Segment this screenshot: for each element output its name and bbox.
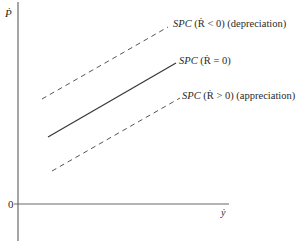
- spc-appreciation-label: SPC (Ṙ > 0) (appreciation): [182, 90, 296, 102]
- spc-depreciation-label: SPC (Ṙ < 0) (depreciation): [173, 18, 287, 30]
- origin-label: 0: [8, 198, 14, 210]
- x-axis-label: ẏ: [220, 207, 226, 218]
- spc-appreciation-line: [52, 98, 180, 171]
- spc-neutral-label: SPC (Ṙ = 0): [179, 55, 231, 67]
- spc-diagram: Ṗ 0 ẏ SPC (Ṙ < 0) (depreciation) SPC (Ṙ …: [0, 0, 299, 241]
- spc-neutral-line: [48, 63, 176, 137]
- y-axis-label: Ṗ: [4, 7, 12, 19]
- spc-depreciation-line: [42, 27, 168, 99]
